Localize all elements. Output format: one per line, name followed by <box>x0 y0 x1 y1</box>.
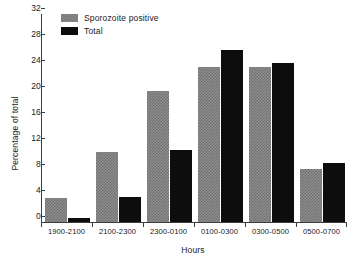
chart-legend: Sporozoite positiveTotal <box>61 12 159 38</box>
y-axis-tick-label: 28 <box>7 29 41 40</box>
x-axis-category-label: 0100-0300 <box>194 227 245 239</box>
bar <box>119 197 141 222</box>
bar <box>68 218 90 222</box>
y-axis-tick-label: 32 <box>7 3 41 14</box>
y-axis-tick-label: 12 <box>7 133 41 144</box>
bar <box>249 67 271 222</box>
y-axis-tick-text: 32 <box>31 3 41 13</box>
bar-series-container <box>42 14 347 222</box>
bar-group <box>198 14 243 222</box>
y-axis-tick-label: 0 <box>7 211 41 222</box>
y-axis-tick-label: 20 <box>7 81 41 92</box>
bar <box>272 63 294 222</box>
legend-swatch-icon <box>61 27 78 35</box>
x-axis-category-label: 2100-2300 <box>92 227 143 239</box>
legend-swatch-icon <box>61 14 78 22</box>
y-axis-tick-text: 20 <box>31 81 41 91</box>
x-axis-title: Hours <box>38 245 348 255</box>
legend-label: Total <box>84 26 103 36</box>
bar-group <box>45 14 90 222</box>
bar <box>198 67 220 222</box>
bar <box>221 50 243 222</box>
bar-group <box>147 14 192 222</box>
x-axis-category-label: 0300-0500 <box>245 227 296 239</box>
x-axis-category-label: 0500-0700 <box>296 227 347 239</box>
y-axis-tick-text: 16 <box>31 107 41 117</box>
y-axis-tick-label: 4 <box>7 185 41 196</box>
plot-area: 048121620242832 <box>41 14 347 223</box>
y-axis-tick-mark <box>41 8 45 9</box>
x-axis-title-text: Hours <box>181 245 204 255</box>
y-axis-tick-text: 24 <box>31 55 41 65</box>
bar <box>96 152 118 222</box>
y-axis-tick-label: 24 <box>7 55 41 66</box>
x-axis-category-label: 2300-0100 <box>143 227 194 239</box>
bar-chart-figure: Percentage of total 048121620242832 1900… <box>0 0 354 267</box>
y-axis-tick-label: 8 <box>7 159 41 170</box>
legend-label: Sporozoite positive <box>84 13 159 23</box>
bar <box>300 169 322 222</box>
bar <box>170 150 192 222</box>
bar-group <box>96 14 141 222</box>
x-axis-category-label: 1900-2100 <box>41 227 92 239</box>
y-axis-tick-text: 12 <box>31 133 41 143</box>
bar-group <box>300 14 345 222</box>
legend-item: Total <box>61 25 159 36</box>
bar <box>45 198 67 222</box>
bar <box>147 91 169 222</box>
bar <box>323 163 345 222</box>
y-axis-tick-text: 28 <box>31 29 41 39</box>
y-axis-tick-label: 16 <box>7 107 41 118</box>
legend-item: Sporozoite positive <box>61 12 159 23</box>
bar-group <box>249 14 294 222</box>
